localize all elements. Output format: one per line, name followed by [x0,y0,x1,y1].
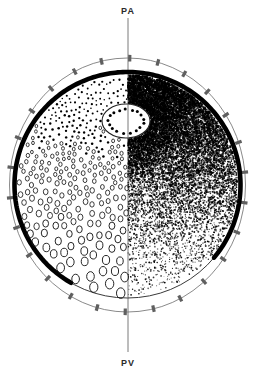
stipple-dot [156,83,157,84]
stipple-dot [161,248,163,250]
stipple-dot [185,248,186,249]
stipple-dot [206,213,208,215]
stipple-dot [161,217,162,218]
stipple-dot [165,172,167,174]
stipple-dot [137,77,139,79]
stipple-dot [189,267,190,268]
stipple-dot [212,250,213,251]
stipple-dot [186,167,188,169]
stipple-dot [203,117,205,119]
stipple-dot [169,212,170,213]
stipple-dot [146,93,148,95]
stipple-dot [131,164,132,165]
stipple-dot [135,94,137,96]
stipple-dot [181,192,183,194]
stipple-dot [130,267,131,268]
stipple-dot [154,261,155,262]
stipple-dot [164,162,165,163]
stipple-dot [205,134,206,135]
stipple-dot [185,141,186,142]
field-ring [76,206,81,212]
stipple-dot [167,217,169,219]
stipple-dot [212,218,213,219]
stipple-dot [149,225,151,227]
stipple-dot [189,217,190,218]
stipple-dot [197,119,199,121]
stipple-dot [153,161,155,163]
stipple-dot [234,161,235,162]
stipple-dot [142,140,144,142]
stipple-dot [214,163,216,165]
stipple-dot [173,253,174,254]
stipple-dot [160,257,161,258]
stipple-dot [232,159,233,160]
stipple-dot [211,220,213,222]
stipple-dot [150,116,152,118]
stipple-dot [145,240,146,241]
stipple-dot [162,260,163,261]
stipple-dot [130,241,131,242]
stipple-dot [190,200,192,202]
stipple-dot [210,154,211,155]
stipple-dot [187,117,189,119]
stipple-dot [148,135,150,137]
stipple-dot [199,212,201,214]
stipple-dot [155,175,156,176]
stipple-dot [193,98,194,99]
field-ring [119,184,123,189]
stipple-dot [207,188,208,189]
stipple-dot [228,168,230,170]
stipple-dot [223,142,224,143]
stipple-dot [184,166,185,167]
stipple-dot [200,114,201,115]
stipple-dot [163,95,164,96]
stipple-dot [221,217,223,219]
stipple-dot [203,139,205,141]
stipple-dot [199,170,201,172]
field-dot-small [85,102,87,104]
field-ring [62,205,67,211]
stipple-dot [170,220,172,222]
stipple-dot [159,283,160,284]
stipple-dot [149,262,150,263]
stipple-dot [207,152,209,154]
stipple-dot [229,207,231,209]
field-dot-small [96,146,98,148]
stipple-dot [133,187,134,188]
optic-disc-rim-dot [108,123,111,126]
stipple-dot [177,254,178,255]
stipple-dot [175,251,176,252]
stipple-dot [236,189,237,190]
stipple-dot [142,179,144,181]
stipple-dot [177,114,179,116]
stipple-dot [181,140,183,142]
stipple-dot [147,268,149,270]
field-dot-small [48,109,50,111]
stipple-dot [127,252,128,253]
stipple-dot [171,172,172,173]
field-ring [81,171,85,176]
stipple-dot [152,212,153,213]
stipple-dot [217,177,218,178]
stipple-dot [186,148,188,150]
stipple-dot [197,179,199,181]
stipple-dot [225,188,226,189]
stipple-dot [226,205,228,207]
field-ring [58,213,64,220]
field-ring [106,207,111,213]
stipple-dot [181,142,182,143]
stipple-dot [198,110,200,112]
stipple-dot [172,161,174,163]
stipple-dot [157,107,159,109]
stipple-dot [208,198,209,199]
stipple-dot [232,213,234,215]
stipple-dot [211,149,213,151]
stipple-dot [185,223,187,225]
field-dot-small [62,98,64,100]
stipple-dot [162,98,163,99]
stipple-dot [145,238,146,239]
stipple-dot [133,247,134,248]
stipple-dot [141,168,143,170]
field-ring [58,175,62,179]
field-ring [120,177,123,181]
